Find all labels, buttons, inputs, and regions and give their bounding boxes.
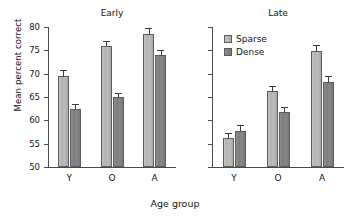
error-bar-cap-late-o-dense [281, 107, 288, 108]
error-bar-cap-late-y-dense [237, 125, 244, 126]
bar-late-a-sparse [311, 51, 322, 167]
x-tick-label-late-o: O [258, 173, 298, 183]
bar-late-a-dense [323, 82, 334, 167]
panel-title-late: Late [172, 8, 350, 18]
bar-early-y-dense [70, 109, 81, 167]
y-axis-line-late [212, 27, 213, 168]
error-bar-cap-late-a-sparse [313, 45, 320, 46]
legend-label-sparse: Sparse [236, 33, 267, 45]
x-axis-title: Age group [105, 198, 245, 209]
error-bar-cap-early-a-sparse [145, 28, 152, 29]
x-tick-label-late-y: Y [214, 173, 254, 183]
y-tick-early-55 [44, 144, 48, 145]
x-axis-line-early [48, 167, 176, 168]
error-bar-cap-late-a-dense [325, 76, 332, 77]
error-bar-cap-early-o-dense [115, 93, 122, 94]
y-tick-early-80 [44, 27, 48, 28]
y-axis-line-early [48, 27, 49, 168]
y-tick-early-70 [44, 74, 48, 75]
y-tick-early-75 [44, 50, 48, 51]
y-tick-early-65 [44, 97, 48, 98]
y-tick-label-70: 70 [2, 69, 40, 79]
x-tick-label-early-a: A [135, 173, 175, 183]
x-axis-line-late [212, 167, 344, 168]
x-tick-label-early-y: Y [49, 173, 89, 183]
error-bar-cap-early-y-dense [72, 104, 79, 105]
y-tick-late-80 [208, 27, 212, 28]
y-tick-early-50 [44, 167, 48, 168]
y-tick-late-65 [208, 97, 212, 98]
y-tick-late-70 [208, 74, 212, 75]
y-tick-early-60 [44, 120, 48, 121]
bar-early-a-sparse [143, 34, 154, 167]
bar-late-y-sparse [223, 138, 234, 167]
error-bar-stem-late-a-sparse [316, 45, 317, 52]
y-tick-label-80: 80 [2, 22, 40, 32]
legend-swatch-sparse [224, 35, 232, 43]
x-tick-label-late-a: A [302, 173, 342, 183]
y-tick-late-60 [208, 120, 212, 121]
figure-canvas: Mean percent correct Early50556065707580… [0, 0, 350, 222]
error-bar-cap-early-o-sparse [103, 41, 110, 42]
bar-early-a-dense [155, 55, 166, 167]
y-tick-label-75: 75 [2, 45, 40, 55]
bar-early-o-sparse [101, 46, 112, 167]
y-tick-late-75 [208, 50, 212, 51]
x-tick-label-early-o: O [92, 173, 132, 183]
y-tick-label-55: 55 [2, 139, 40, 149]
y-tick-label-65: 65 [2, 92, 40, 102]
bar-late-o-sparse [267, 91, 278, 167]
bar-late-y-dense [235, 131, 246, 167]
bar-early-y-sparse [58, 76, 69, 167]
y-tick-label-50: 50 [2, 162, 40, 172]
error-bar-cap-late-o-sparse [269, 86, 276, 87]
y-tick-label-60: 60 [2, 115, 40, 125]
y-tick-late-55 [208, 144, 212, 145]
legend-swatch-dense [224, 48, 232, 56]
error-bar-cap-late-y-sparse [225, 133, 232, 134]
legend-label-dense: Dense [236, 46, 264, 58]
bar-early-o-dense [113, 97, 124, 167]
error-bar-cap-early-y-sparse [60, 70, 67, 71]
bar-late-o-dense [279, 112, 290, 167]
y-tick-late-50 [208, 167, 212, 168]
error-bar-cap-early-a-dense [157, 50, 164, 51]
